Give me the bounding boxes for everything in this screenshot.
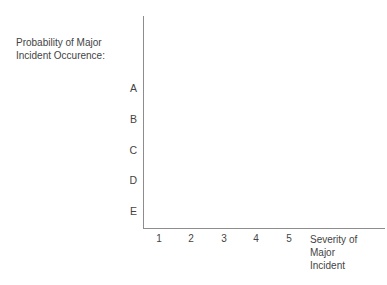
x-axis-tick-label-4: 4 — [246, 233, 266, 245]
x-axis-tick-label-2: 2 — [181, 233, 201, 245]
risk-matrix-chart: Probability of Major Incident Occurence:… — [0, 0, 387, 285]
x-axis-tick-label-1: 1 — [149, 233, 169, 245]
y-axis-tick-label-b: B — [111, 113, 137, 125]
y-axis-tick-label-c: C — [111, 144, 137, 156]
x-axis-label: Severity of Major Incident — [310, 233, 384, 272]
y-axis-tick-label-a: A — [111, 82, 137, 94]
plot-area[interactable] — [144, 16, 385, 228]
x-axis-line — [143, 228, 385, 229]
x-axis-tick-label-3: 3 — [214, 233, 234, 245]
y-axis-tick-label-d: D — [111, 174, 137, 186]
y-axis-label: Probability of Major Incident Occurence: — [16, 36, 140, 62]
x-axis-tick-label-5: 5 — [279, 233, 299, 245]
y-axis-tick-label-e: E — [111, 205, 137, 217]
